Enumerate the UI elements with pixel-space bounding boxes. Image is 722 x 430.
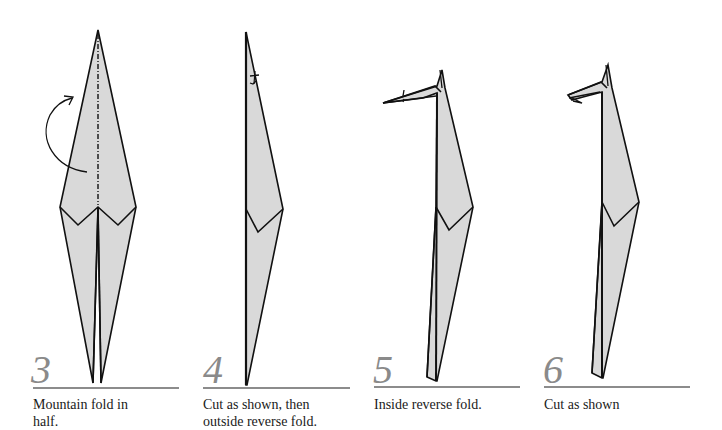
origami-diagram [0, 0, 722, 430]
step-5-figure [383, 70, 473, 381]
step-number-5: 5 [373, 350, 393, 390]
step-6-rule [544, 386, 690, 388]
step-3-caption: Mountain fold in half. [33, 396, 193, 430]
step-number-6: 6 [543, 350, 563, 390]
caption-line: half. [33, 413, 193, 430]
step-number-3: 3 [31, 350, 51, 390]
step-5-rule [374, 386, 520, 388]
caption-line: Mountain fold in [33, 396, 193, 413]
cut-mark [403, 90, 404, 96]
step-number-4: 4 [203, 350, 223, 390]
step-6-caption: Cut as shown [544, 396, 704, 413]
step-3-rule [33, 387, 179, 389]
caption-line: Cut as shown, then [203, 396, 363, 413]
caption-line: Inside reverse fold. [374, 396, 534, 413]
caption-line: outside reverse fold. [203, 413, 363, 430]
step-4-caption: Cut as shown, then outside reverse fold. [203, 396, 363, 430]
step-4-rule [203, 387, 350, 389]
step-5-caption: Inside reverse fold. [374, 396, 534, 413]
step-4-figure [246, 32, 283, 385]
step-6-figure [568, 65, 639, 378]
step-3-figure [46, 30, 136, 383]
caption-line: Cut as shown [544, 396, 704, 413]
